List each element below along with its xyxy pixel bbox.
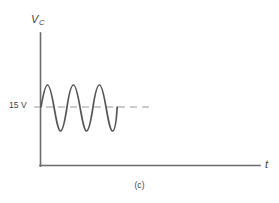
plot-canvas [0,0,279,203]
y-axis-tick-label-15v: 15 V [9,100,27,110]
y-axis-label-subscript: C [39,18,45,27]
figure-caption: (c) [0,180,279,190]
waveform-capacitor-voltage [41,85,117,131]
figure-panel: VC t 15 V (c) [0,0,279,203]
x-axis-label: t [265,158,268,170]
y-axis-label: VC [31,13,44,25]
y-axis-label-symbol: V [31,13,39,25]
